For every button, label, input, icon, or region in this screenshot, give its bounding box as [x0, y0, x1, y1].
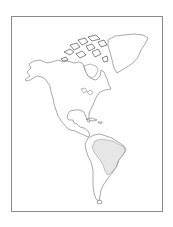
greenland [108, 34, 148, 73]
tierra-del-fuego [97, 200, 102, 204]
americas-map [0, 0, 173, 227]
north-america-landmass [25, 60, 111, 137]
arctic-archipelago [61, 35, 108, 62]
